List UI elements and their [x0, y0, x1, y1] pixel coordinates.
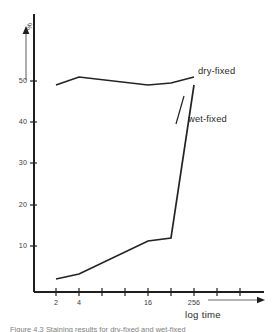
x-tick-label-16: 16: [138, 299, 158, 306]
x-tick-label-4: 4: [69, 299, 89, 306]
figure-caption: Figure 4.3 Staining results for dry-fixe…: [10, 325, 268, 332]
chart-canvas: [0, 0, 273, 332]
series-label-wet-fixed: wet-fixed: [188, 113, 227, 124]
y-tick-label-40: 40: [11, 118, 27, 125]
x-axis-title: log time: [185, 309, 221, 320]
y-tick-label-50: 50: [11, 77, 27, 84]
figure-chart: % 50 40 30 20 10 2 4 16 256 dry-fixed we…: [0, 0, 273, 332]
x-tick-label-2: 2: [46, 299, 66, 306]
y-tick-label-10: 10: [11, 242, 27, 249]
series-line-dry-fixed: [56, 77, 194, 85]
series-line-wet-fixed: [56, 85, 194, 279]
y-tick-label-20: 20: [11, 201, 27, 208]
y-axis-label: %: [25, 23, 34, 30]
x-axis-arrow-icon: [208, 297, 265, 303]
x-tick-label-256: 256: [184, 299, 204, 306]
wet-fixed-leader-line: [176, 96, 184, 124]
y-axis-arrow-icon: [23, 26, 30, 80]
y-tick-label-30: 30: [11, 159, 27, 166]
series-label-dry-fixed: dry-fixed: [198, 65, 235, 76]
